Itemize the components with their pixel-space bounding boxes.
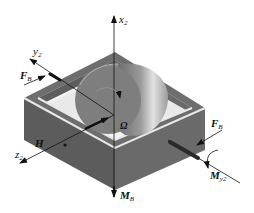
My2-arrow	[207, 150, 218, 168]
moment-right-label: My2	[210, 170, 226, 183]
spin-rate-label: Ω	[120, 121, 127, 131]
force-left-label: FB	[20, 70, 32, 83]
moment-bottom-label: MB	[120, 190, 134, 203]
force-right-label: FB	[211, 118, 223, 131]
y2-axis-label: y2	[33, 46, 41, 59]
angular-momentum-label: H	[35, 138, 44, 149]
x2-axis-label: x2	[119, 14, 127, 27]
z2-axis-label: z2	[15, 149, 23, 162]
